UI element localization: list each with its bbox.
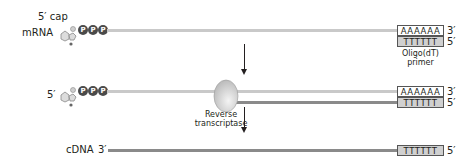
phosphate-icon: P bbox=[78, 25, 88, 35]
five-prime-cap-label: 5′ cap bbox=[38, 12, 68, 22]
polya-tail: AAAAAA bbox=[397, 86, 444, 97]
five-prime-end-label: 5′ bbox=[447, 98, 456, 108]
reverse-transcriptase-enzyme-icon bbox=[213, 79, 239, 113]
oligo-dt-primer: TTTTTT bbox=[397, 36, 444, 47]
mrna-strand bbox=[107, 29, 397, 32]
five-prime-end-label: 5′ bbox=[447, 146, 456, 156]
phosphate-icon: P bbox=[88, 25, 98, 35]
oligo-dt-primer: TTTTTT bbox=[397, 145, 444, 156]
oligo-dt-primer: TTTTTT bbox=[397, 97, 444, 108]
three-prime-label: 3′ bbox=[98, 145, 107, 155]
three-prime-end-label: 3′ bbox=[447, 26, 456, 36]
oligo-dt-primer-label: Oligo(dT) primer bbox=[397, 49, 444, 67]
three-prime-end-label: 3′ bbox=[447, 87, 456, 97]
cdna-strand bbox=[108, 149, 397, 152]
reverse-transcriptase-label: Reverse transcriptase bbox=[186, 110, 256, 128]
mrna-strand bbox=[107, 90, 397, 93]
phosphate-icon: P bbox=[78, 86, 88, 96]
cdna-strand-growing bbox=[236, 101, 397, 104]
phosphate-icon: P bbox=[88, 86, 98, 96]
cdna-label: cDNA bbox=[66, 145, 94, 155]
mrna-label: mRNA bbox=[22, 28, 53, 38]
five-prime-end-label: 5′ bbox=[447, 37, 456, 47]
five-prime-label: 5′ bbox=[47, 90, 56, 100]
polya-tail: AAAAAA bbox=[397, 25, 444, 36]
